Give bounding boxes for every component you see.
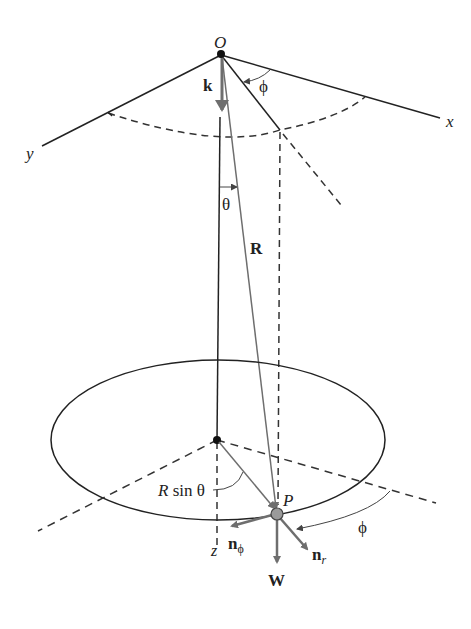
k-label: k — [203, 76, 213, 95]
n-phi-vector[interactable] — [232, 515, 272, 526]
phi-top-label: ϕ — [259, 77, 268, 96]
weight-label: W — [268, 571, 285, 590]
R-label: R — [250, 239, 263, 258]
phi-bottom-label: ϕ — [358, 518, 367, 537]
z-axis-label: z — [210, 542, 218, 559]
vertical-dashed-line — [278, 132, 280, 505]
radius-vector — [219, 442, 274, 508]
azimuth-dashed-extension — [283, 134, 341, 205]
y-axis-label: y — [24, 144, 34, 163]
y-axis — [42, 55, 221, 146]
phi-arc-bottom — [297, 491, 390, 529]
n-r-vector[interactable] — [280, 518, 307, 549]
x-axis-label: x — [445, 112, 454, 131]
point-P-label: P — [282, 491, 293, 510]
n-phi-label: nϕ — [228, 534, 244, 556]
spherical-pendulum-diagram: O x y k ϕ θ R R sin θ P z nϕ nr W ϕ — [0, 0, 471, 629]
vertical-axis-line — [217, 117, 220, 440]
point-P-mass[interactable] — [271, 508, 283, 520]
theta-label: θ — [222, 195, 230, 214]
origin-label: O — [214, 33, 226, 52]
top-dashed-arc — [108, 97, 365, 137]
R-vector[interactable] — [222, 57, 276, 508]
right-dashed-axis — [217, 440, 436, 503]
radius-label: R sin θ — [157, 481, 205, 500]
x-axis — [221, 55, 440, 118]
n-r-label: nr — [312, 545, 326, 567]
